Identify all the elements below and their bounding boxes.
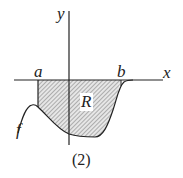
function-label: f xyxy=(16,120,23,139)
y-axis-label: y xyxy=(55,4,65,23)
figure: y x a b R f (2) xyxy=(0,0,183,178)
region-label: R xyxy=(80,92,92,111)
point-a-label: a xyxy=(34,62,43,81)
region-r xyxy=(38,80,121,137)
x-axis-label: x xyxy=(162,63,171,82)
point-b-label: b xyxy=(117,62,126,81)
figure-caption: (2) xyxy=(72,151,91,169)
diagram-canvas: y x a b R f (2) xyxy=(0,0,183,178)
